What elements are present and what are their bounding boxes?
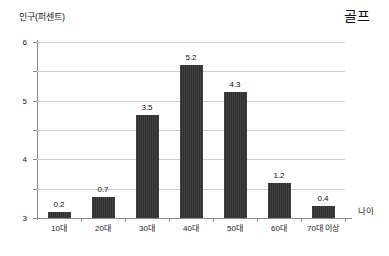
bar-value-label: 0.4 xyxy=(317,194,328,203)
x-tick-mark xyxy=(345,218,346,222)
x-category-label: 10대 xyxy=(51,224,67,234)
bar: 4.3 xyxy=(224,92,247,218)
chart-title: 골프 xyxy=(344,8,370,25)
y-tick-label: 3 xyxy=(23,214,27,223)
x-category-label: 60대 xyxy=(271,224,287,234)
x-category-label: 30대 xyxy=(139,224,155,234)
x-category-label: 50대 xyxy=(227,224,243,234)
bar: 0.4 xyxy=(312,206,335,218)
y-tick-mark: 6 xyxy=(33,42,37,43)
bar-value-label: 1.2 xyxy=(273,171,284,180)
x-axis-title: 나이 xyxy=(358,206,374,216)
bar-value-label: 5.2 xyxy=(185,53,196,62)
x-tick-mark xyxy=(125,218,126,222)
y-tick-mark: 3 xyxy=(33,130,37,131)
x-tick-mark xyxy=(169,218,170,222)
y-tick-label: 6 xyxy=(23,38,27,47)
y-tick-mark: 0 xyxy=(33,218,37,219)
y-tick-mark: 4 xyxy=(33,101,37,102)
plot-area: 01234560.20.73.55.24.31.20.4 xyxy=(37,42,345,218)
bar: 0.7 xyxy=(92,197,115,218)
x-tick-mark xyxy=(213,218,214,222)
bar-chart: 인구(퍼센트) 골프 나이 01234560.20.73.55.24.31.20… xyxy=(0,0,389,256)
bar: 3.5 xyxy=(136,115,159,218)
gridline xyxy=(37,218,345,219)
y-tick-mark: 2 xyxy=(33,159,37,160)
y-tick-label: 4 xyxy=(23,155,27,164)
x-tick-mark xyxy=(81,218,82,222)
y-tick-label: 5 xyxy=(23,96,27,105)
x-tick-mark xyxy=(257,218,258,222)
bar: 0.2 xyxy=(48,212,71,218)
y-axis-title: 인구(퍼센트) xyxy=(19,12,65,23)
y-tick-mark: 5 xyxy=(33,71,37,72)
bar-value-label: 0.7 xyxy=(97,185,108,194)
bar-value-label: 0.2 xyxy=(53,200,64,209)
bar-value-label: 3.5 xyxy=(141,103,152,112)
x-category-label: 40대 xyxy=(183,224,199,234)
y-tick-mark: 1 xyxy=(33,189,37,190)
x-category-label: 20대 xyxy=(95,224,111,234)
x-tick-mark xyxy=(301,218,302,222)
bar: 5.2 xyxy=(180,65,203,218)
bar: 1.2 xyxy=(268,183,291,218)
x-category-label: 70대 이상 xyxy=(307,224,339,234)
gridline xyxy=(37,42,345,43)
bar-value-label: 4.3 xyxy=(229,80,240,89)
